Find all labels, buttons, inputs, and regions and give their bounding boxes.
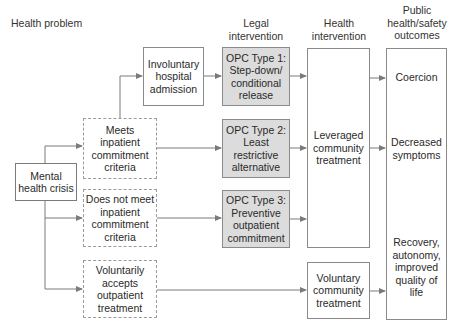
header-legal-intervention: Legal intervention [212, 17, 300, 42]
node-mental-health-crisis: Mental health crisis [15, 163, 77, 201]
node-opc-type2: OPC Type 2: Least restrictive alternativ… [222, 119, 290, 178]
node-label: Leveraged community treatment [313, 129, 364, 167]
header-outcomes: Public health/safety outcomes [376, 4, 456, 42]
node-opc-type3: OPC Type 3: Preventive outpatient commit… [222, 190, 290, 248]
node-label: Mental health crisis [18, 170, 73, 195]
node-does-not-meet-criteria: Does not meet inpatient commitment crite… [83, 189, 157, 247]
header-health-problem: Health problem [11, 17, 82, 30]
node-label: Does not meet inpatient commitment crite… [86, 193, 154, 243]
node-label: Involuntary hospital admission [148, 58, 199, 96]
header-health-intervention: Health intervention [298, 17, 380, 42]
node-meets-criteria: Meets inpatient commitment criteria [83, 118, 157, 179]
node-label: OPC Type 1: Step-down/ conditional relea… [226, 52, 286, 102]
node-label: OPC Type 3: Preventive outpatient commit… [226, 194, 286, 244]
node-voluntary-treatment: Voluntary community treatment [307, 262, 370, 319]
node-leveraged-treatment: Leveraged community treatment [307, 48, 370, 248]
node-label: Meets inpatient commitment criteria [91, 124, 148, 174]
node-voluntarily-accepts: Voluntarily accepts outpatient treatment [83, 260, 157, 318]
outcome-decreased-symptoms: Decreased symptoms [386, 136, 447, 161]
node-label: Voluntary community treatment [313, 272, 364, 310]
node-opc-type1: OPC Type 1: Step-down/ conditional relea… [222, 47, 290, 106]
node-label: Voluntarily accepts outpatient treatment [96, 264, 144, 314]
outcome-coercion: Coercion [386, 71, 447, 84]
outcome-recovery: Recovery, autonomy, improved quality of … [386, 236, 447, 299]
node-involuntary-admission: Involuntary hospital admission [143, 47, 204, 106]
node-label: OPC Type 2: Least restrictive alternativ… [226, 124, 286, 174]
